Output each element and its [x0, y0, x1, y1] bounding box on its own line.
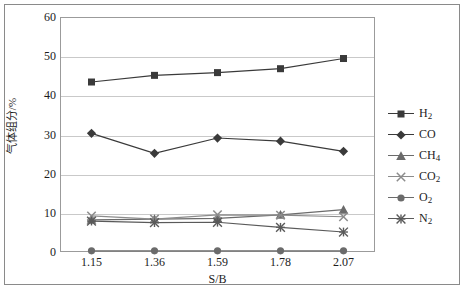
legend-item-O2[interactable]: O2	[388, 187, 460, 208]
series-H2	[88, 55, 347, 85]
x-axis-tick-label: 2.07	[314, 256, 374, 268]
legend-label: CO2	[414, 169, 440, 184]
data-point	[214, 247, 221, 254]
legend-marker-icon	[388, 149, 414, 163]
x-axis-title: S/B	[60, 272, 375, 287]
legend-marker-icon	[388, 128, 414, 142]
legend-item-CO2[interactable]: CO2	[388, 166, 460, 187]
legend-label: CO	[414, 127, 436, 142]
legend-marker-icon	[388, 170, 414, 184]
data-point	[339, 205, 349, 214]
x-axis-tick-label: 1.15	[62, 256, 122, 268]
chart-figure: 0102030405060 气体组分/% 1.151.361.591.782.0…	[0, 0, 466, 294]
data-point	[340, 247, 347, 254]
data-point	[151, 72, 158, 79]
legend-label: N2	[414, 211, 432, 226]
legend-label: H2	[414, 106, 432, 121]
chart-series-layer	[60, 17, 375, 252]
legend: H2COCH4CO2O2N2	[388, 103, 460, 229]
data-point	[87, 217, 96, 226]
data-point	[87, 129, 96, 138]
data-point	[276, 137, 285, 146]
legend-label: CH4	[414, 148, 440, 163]
legend-item-CO[interactable]: CO	[388, 124, 460, 145]
legend-item-N2[interactable]: N2	[388, 208, 460, 229]
data-point	[213, 218, 222, 227]
data-point	[339, 228, 348, 237]
data-point	[150, 218, 159, 227]
y-axis-tick-label: 50	[4, 50, 56, 62]
data-point	[88, 247, 95, 254]
data-point	[339, 147, 348, 156]
data-point	[214, 69, 221, 76]
series-CO	[87, 129, 348, 158]
data-point	[340, 55, 347, 62]
data-point	[150, 149, 159, 158]
data-point	[151, 247, 158, 254]
x-axis-tick-label: 1.36	[125, 256, 185, 268]
legend-item-H2[interactable]: H2	[388, 103, 460, 124]
x-axis-tick-label: 1.78	[251, 256, 311, 268]
data-point	[213, 133, 222, 142]
y-axis-tick-label: 60	[4, 11, 56, 23]
legend-marker-icon	[388, 212, 414, 226]
data-point	[277, 247, 284, 254]
y-axis-tick-label: 0	[4, 246, 56, 258]
x-axis-tick-label: 1.59	[188, 256, 248, 268]
y-axis-tick-label: 10	[4, 207, 56, 219]
legend-label: O2	[414, 190, 432, 205]
data-point	[276, 223, 285, 232]
legend-marker-icon	[388, 191, 414, 205]
legend-marker-icon	[388, 107, 414, 121]
y-axis-title: 气体组分/%	[3, 81, 19, 171]
legend-item-CH4[interactable]: CH4	[388, 145, 460, 166]
data-point	[277, 65, 284, 72]
x-axis-ticks: 1.151.361.591.782.07	[60, 256, 375, 272]
data-point	[88, 79, 95, 86]
